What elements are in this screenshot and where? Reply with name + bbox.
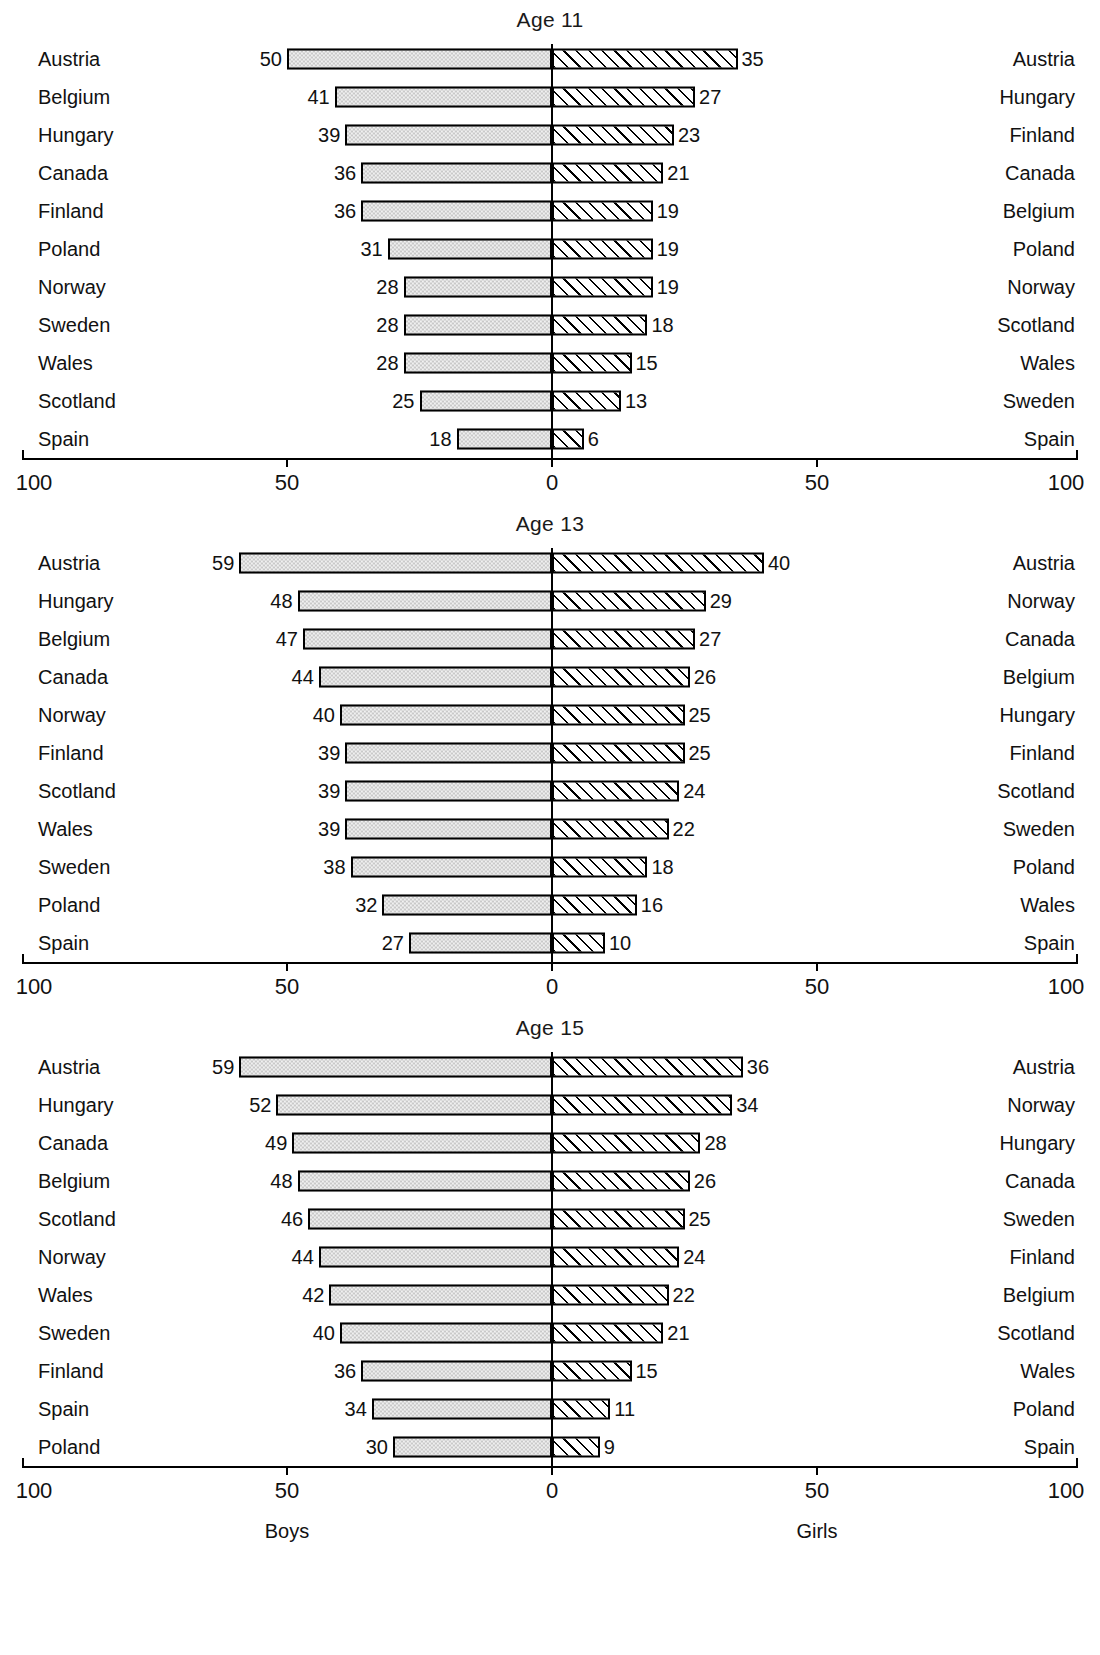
row-label-right: Canada [1005,628,1075,651]
bar-value-girls: 10 [609,932,631,955]
bar-girls [552,429,584,450]
chart-row: SwedenScotland2818 [0,306,1100,344]
row-label-right: Finland [1009,742,1075,765]
bar-boys [361,1361,552,1382]
row-label-right: Wales [1020,1360,1075,1383]
bar-value-girls: 21 [667,162,689,185]
bar-girls [552,857,647,878]
row-label-left: Canada [38,1132,108,1155]
row-label-right: Finland [1009,124,1075,147]
chart-row: SwedenPoland3818 [0,848,1100,886]
row-label-left: Spain [38,428,89,451]
x-axis: 10050050100 [0,458,1100,502]
row-label-left: Norway [38,1246,106,1269]
row-label-right: Canada [1005,1170,1075,1193]
x-axis-tick [286,962,288,971]
chart-row: CanadaCanada3621 [0,154,1100,192]
chart-row: FinlandBelgium3619 [0,192,1100,230]
bar-value-boys: 52 [249,1094,271,1117]
x-axis-tick [551,1466,553,1475]
row-label-right: Sweden [1003,818,1075,841]
bar-girls [552,1133,700,1154]
bar-value-girls: 23 [678,124,700,147]
bar-value-girls: 34 [736,1094,758,1117]
row-label-left: Austria [38,552,100,575]
bar-value-girls: 9 [604,1436,615,1459]
bar-value-boys: 59 [212,1056,234,1079]
panel-rows: AustriaAustria5035BelgiumHungary4127Hung… [0,40,1100,458]
panel-age-15: Age 15AustriaAustria5936HungaryNorway523… [0,1006,1100,1510]
bar-value-boys: 48 [270,590,292,613]
bar-value-boys: 39 [318,780,340,803]
chart-row: PolandPoland3119 [0,230,1100,268]
bar-value-boys: 39 [318,818,340,841]
bar-boys [393,1437,552,1458]
x-axis: 10050050100 [0,1466,1100,1510]
bar-boys [292,1133,552,1154]
row-label-right: Norway [1007,590,1075,613]
bar-boys [345,743,552,764]
row-label-right: Sweden [1003,1208,1075,1231]
x-axis-tick [286,1466,288,1475]
bar-value-girls: 19 [657,276,679,299]
zero-axis-line [551,548,553,962]
row-label-right: Austria [1013,1056,1075,1079]
row-label-left: Spain [38,932,89,955]
bar-value-girls: 21 [667,1322,689,1345]
panel-title: Age 13 [0,502,1100,544]
row-label-left: Sweden [38,856,110,879]
chart-row: ScotlandSweden2513 [0,382,1100,420]
bar-boys [345,819,552,840]
bar-value-boys: 36 [334,200,356,223]
bar-value-boys: 40 [313,1322,335,1345]
bar-boys [239,553,552,574]
x-axis-tick [816,458,818,467]
zero-axis-line [551,1052,553,1466]
row-label-right: Hungary [999,1132,1075,1155]
bar-value-boys: 48 [270,1170,292,1193]
row-label-right: Belgium [1003,200,1075,223]
chart-row: SpainSpain2710 [0,924,1100,962]
bar-girls [552,239,653,260]
row-label-left: Poland [38,1436,100,1459]
x-axis-tick [22,1458,24,1468]
x-axis-tick-label: 0 [546,1478,558,1504]
row-label-right: Wales [1020,352,1075,375]
bar-value-boys: 27 [382,932,404,955]
bar-boys [335,87,552,108]
x-axis-tick-label: 50 [805,470,829,496]
population-pyramid-chart: Age 11AustriaAustria5035BelgiumHungary41… [0,0,1100,1556]
bar-value-girls: 24 [683,1246,705,1269]
bar-girls [552,315,647,336]
chart-row: AustriaAustria5035 [0,40,1100,78]
bar-girls [552,743,685,764]
bar-value-boys: 50 [260,48,282,71]
bar-value-boys: 44 [292,1246,314,1269]
bar-girls [552,49,738,70]
x-axis-tick [22,450,24,460]
x-axis-tick-label: 50 [275,470,299,496]
bar-value-boys: 30 [366,1436,388,1459]
bar-boys [298,1171,552,1192]
bar-boys [372,1399,552,1420]
bar-girls [552,1057,743,1078]
bar-value-girls: 22 [673,818,695,841]
x-axis-tick-label: 100 [1048,974,1085,1000]
bar-girls [552,201,653,222]
bar-value-girls: 27 [699,86,721,109]
bar-value-girls: 19 [657,238,679,261]
row-label-right: Sweden [1003,390,1075,413]
row-label-right: Belgium [1003,1284,1075,1307]
x-axis-tick-label: 50 [805,1478,829,1504]
bar-girls [552,553,764,574]
bar-value-girls: 16 [641,894,663,917]
row-label-right: Poland [1013,1398,1075,1421]
bar-girls [552,1361,632,1382]
x-axis-tick [551,458,553,467]
bar-value-girls: 11 [614,1398,635,1421]
x-axis-tick-label: 100 [16,1478,53,1504]
row-label-right: Poland [1013,238,1075,261]
bar-boys [361,163,552,184]
row-label-left: Poland [38,238,100,261]
row-label-right: Canada [1005,162,1075,185]
